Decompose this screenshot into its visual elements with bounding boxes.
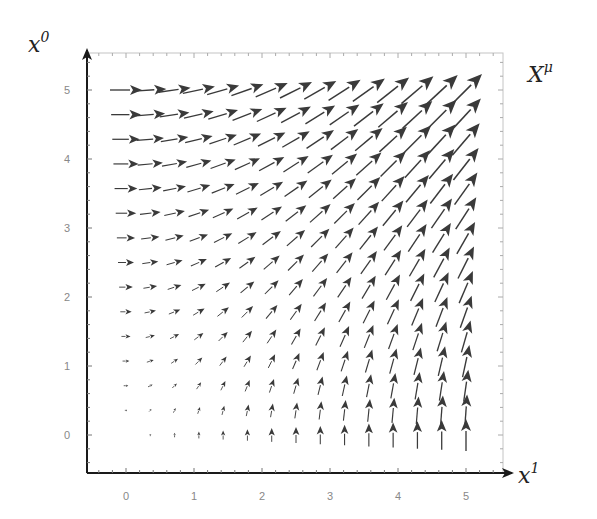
y-tick-labels: 012345 [64, 84, 70, 441]
vector-arrow [238, 232, 256, 243]
vector-arrow [261, 206, 282, 220]
vector-arrow [143, 284, 157, 290]
vector-arrow [331, 129, 358, 150]
vector-arrow [186, 159, 211, 168]
vector-arrow [354, 103, 384, 126]
vector-arrow [317, 377, 324, 395]
vector-arrow [172, 383, 177, 388]
vector-arrow [118, 259, 134, 266]
vector-arrow [187, 184, 210, 192]
vector-arrows [110, 74, 482, 451]
vector-arrow [269, 379, 275, 393]
vector-arrow [190, 234, 208, 241]
vector-arrow [124, 385, 129, 387]
vector-arrow [341, 425, 349, 446]
vector-arrow [191, 259, 207, 266]
vector-arrow [381, 151, 406, 176]
vector-arrow [428, 124, 455, 154]
vector-arrow [317, 426, 324, 444]
vector-arrow [389, 324, 399, 349]
vector-arrow [437, 396, 447, 426]
x-tick-label: 0 [123, 490, 129, 502]
vector-arrow [309, 179, 332, 197]
vector-arrow [437, 420, 447, 450]
vector-arrow [414, 347, 423, 374]
vector-arrow [405, 150, 430, 177]
vector-arrow [216, 283, 230, 292]
vector-arrow [137, 135, 164, 144]
vector-arrow [207, 84, 239, 95]
vector-arrow [363, 300, 374, 323]
vector-arrow [330, 104, 360, 125]
vector-arrow [264, 256, 280, 270]
vector-arrow [438, 346, 448, 376]
y-tick-label: 4 [64, 153, 70, 165]
vector-arrow [267, 330, 276, 344]
vector-arrow [437, 322, 447, 352]
vector-arrow [315, 303, 326, 321]
vector-arrow [411, 273, 425, 300]
vector-arrow [282, 131, 309, 147]
vector-arrow [316, 327, 325, 345]
vector-arrow [379, 127, 406, 152]
vector-arrow [403, 101, 433, 128]
vector-arrow [433, 223, 451, 253]
vector-arrow [365, 374, 373, 397]
vector-arrow [234, 134, 261, 146]
vector-arrow [139, 184, 162, 192]
y-tick-label: 1 [64, 360, 70, 372]
vector-arrow [245, 405, 250, 416]
x-tick-labels: 012345 [123, 490, 469, 502]
vector-arrow [236, 183, 259, 194]
vector-arrow [365, 424, 373, 447]
vector-arrow [413, 323, 423, 350]
vector-arrow [239, 257, 255, 268]
y-tick-label: 5 [64, 84, 70, 96]
vector-arrow [217, 307, 228, 316]
vector-arrow [215, 258, 231, 267]
vector-arrow [113, 160, 138, 169]
vector-arrow [169, 309, 180, 314]
vector-arrow [413, 421, 422, 448]
vector-arrow [141, 234, 159, 241]
vector-arrow [148, 385, 153, 387]
vector-arrow [307, 130, 334, 148]
vector-arrow [310, 204, 331, 222]
vector-arrow [170, 334, 179, 339]
vector-arrow [364, 325, 373, 348]
vector-arrow [335, 228, 353, 249]
vector-arrow [149, 434, 151, 436]
vector-arrow [313, 278, 327, 296]
vector-arrow [407, 200, 428, 227]
vector-arrow [340, 326, 349, 347]
vector-arrow [116, 209, 137, 217]
vector-arrow [389, 373, 398, 398]
vector-arrow [408, 224, 426, 251]
vector-arrow [194, 333, 203, 340]
vector-arrow [208, 109, 238, 119]
vector-arrow [378, 102, 408, 127]
vector-arrow [117, 234, 135, 241]
vector-arrow [341, 400, 349, 421]
vector-arrow [305, 106, 335, 124]
vector-arrow [110, 85, 142, 95]
vector-arrow [289, 279, 303, 295]
vector-arrow [193, 308, 204, 315]
vector-arrow [213, 209, 234, 218]
vector-arrow [185, 134, 212, 143]
vector-arrow [359, 202, 380, 225]
x-axis-label: x1 [518, 460, 539, 488]
y-axis-label: x0 [28, 29, 49, 57]
vector-arrow [211, 159, 236, 169]
vector-arrow [341, 351, 349, 372]
vector-arrow [291, 328, 300, 344]
vector-arrow [147, 360, 154, 363]
vector-arrow [269, 428, 275, 442]
vector-arrow [164, 209, 185, 217]
vector-arrow [312, 253, 328, 271]
vector-arrow [362, 276, 376, 299]
vector-arrow [409, 249, 425, 276]
vector-arrow [173, 408, 175, 413]
x-tick-label: 5 [463, 490, 469, 502]
x-tick-label: 4 [395, 490, 401, 502]
